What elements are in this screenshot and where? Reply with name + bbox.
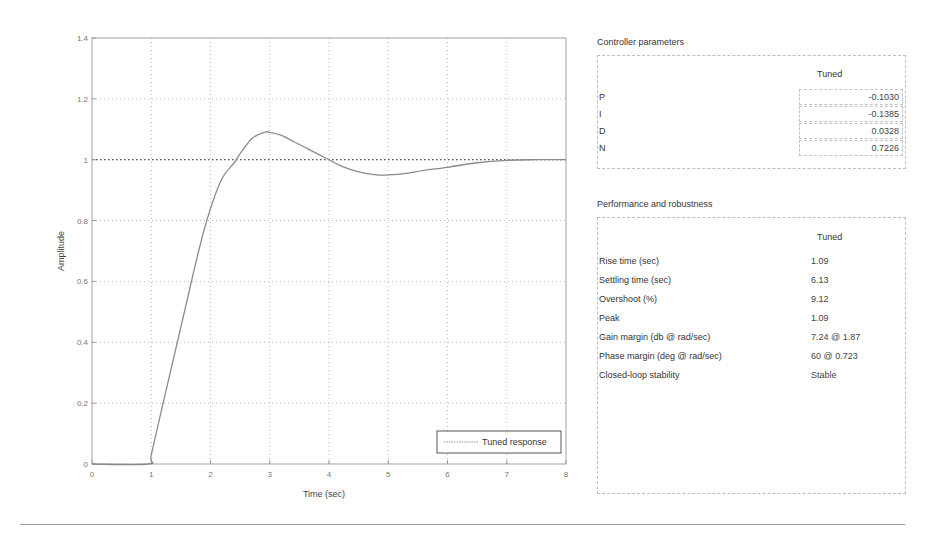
param-name: P — [599, 92, 605, 102]
plot-grid — [92, 38, 566, 464]
perf-value: 1.09 — [811, 256, 829, 266]
perf-name: Overshoot (%) — [599, 294, 657, 304]
y-axis-label: Amplitude — [56, 231, 66, 271]
performance-title: Performance and robustness — [597, 199, 713, 209]
param-name: I — [599, 109, 602, 119]
param-value-p[interactable]: -0.1030 — [799, 89, 903, 105]
performance-column-header: Tuned — [817, 232, 842, 242]
x-tick-label: 8 — [564, 470, 569, 479]
param-name: N — [599, 143, 606, 153]
param-name: D — [599, 126, 606, 136]
perf-value: 60 @ 0.723 — [811, 351, 858, 361]
perf-row-gain-margin: Gain margin (db @ rad/sec) 7.24 @ 1.87 — [598, 332, 905, 349]
perf-name: Closed-loop stability — [599, 370, 680, 380]
perf-name: Gain margin (db @ rad/sec) — [599, 332, 710, 342]
perf-value: 6.13 — [811, 275, 829, 285]
perf-value: 7.24 @ 1.87 — [811, 332, 860, 342]
param-row-i: I -0.1385 — [598, 106, 905, 123]
y-tick-label: 1 — [84, 156, 89, 165]
perf-row-closed-loop-stability: Closed-loop stability Stable — [598, 370, 905, 387]
perf-value: Stable — [811, 370, 837, 380]
y-tick-label: 1.2 — [77, 95, 89, 104]
perf-row-overshoot: Overshoot (%) 9.12 — [598, 294, 905, 311]
perf-row-peak: Peak 1.09 — [598, 313, 905, 330]
step-response-plot: 01234567800.20.40.60.811.21.4 Time (sec)… — [0, 0, 600, 540]
x-tick-label: 5 — [386, 470, 391, 479]
y-tick-label: 0 — [84, 460, 89, 469]
controller-parameters-panel: Tuned P -0.1030 I -0.1385 D 0.0328 N 0.7… — [597, 55, 906, 169]
x-tick-label: 3 — [268, 470, 273, 479]
x-tick-label: 2 — [208, 470, 213, 479]
param-row-p: P -0.1030 — [598, 89, 905, 106]
perf-row-phase-margin: Phase margin (deg @ rad/sec) 60 @ 0.723 — [598, 351, 905, 368]
controller-parameters-title: Controller parameters — [597, 37, 684, 47]
perf-name: Phase margin (deg @ rad/sec) — [599, 351, 722, 361]
param-row-d: D 0.0328 — [598, 123, 905, 140]
perf-value: 1.09 — [811, 313, 829, 323]
controller-column-header: Tuned — [817, 69, 842, 79]
axis-ticks: 01234567800.20.40.60.811.21.4 — [77, 34, 569, 479]
param-value-d[interactable]: 0.0328 — [799, 123, 903, 139]
bottom-divider — [20, 524, 905, 525]
perf-value: 9.12 — [811, 294, 829, 304]
y-tick-label: 0.4 — [77, 338, 89, 347]
perf-name: Settling time (sec) — [599, 275, 671, 285]
y-tick-label: 0.8 — [77, 217, 89, 226]
legend[interactable]: Tuned response — [437, 431, 561, 453]
x-tick-label: 6 — [445, 470, 450, 479]
x-tick-label: 0 — [90, 470, 95, 479]
param-value-n[interactable]: 0.7226 — [799, 140, 903, 156]
x-tick-label: 4 — [327, 470, 332, 479]
x-tick-label: 7 — [505, 470, 510, 479]
param-row-n: N 0.7226 — [598, 140, 905, 157]
legend-label-tuned-response: Tuned response — [482, 437, 547, 447]
perf-name: Peak — [599, 313, 620, 323]
y-tick-label: 0.6 — [77, 277, 89, 286]
perf-row-rise-time: Rise time (sec) 1.09 — [598, 256, 905, 273]
param-value-i[interactable]: -0.1385 — [799, 106, 903, 122]
x-axis-label: Time (sec) — [303, 489, 345, 499]
perf-row-settling-time: Settling time (sec) 6.13 — [598, 275, 905, 292]
y-tick-label: 1.4 — [77, 34, 89, 43]
performance-panel: Tuned Rise time (sec) 1.09 Settling time… — [597, 217, 906, 494]
perf-name: Rise time (sec) — [599, 256, 659, 266]
y-tick-label: 0.2 — [77, 399, 89, 408]
x-tick-label: 1 — [149, 470, 154, 479]
